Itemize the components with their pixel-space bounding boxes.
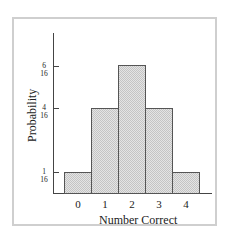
bar-3 <box>146 109 173 194</box>
x-tick-label-0: 0 <box>72 198 84 210</box>
bar-0 <box>65 173 92 194</box>
x-axis-label: Number Correct <box>99 213 177 228</box>
x-tick-label-2: 2 <box>126 198 138 210</box>
y-tick-label-1-16: 1 16 <box>37 168 51 184</box>
bar-1 <box>92 109 119 194</box>
x-tick-label-4: 4 <box>180 198 192 210</box>
x-tick-label-3: 3 <box>153 198 165 210</box>
x-tick-label-1: 1 <box>99 198 111 210</box>
bar-2 <box>119 66 146 194</box>
bar-4 <box>173 173 200 194</box>
y-tick-label-6-16: 6 16 <box>37 62 51 78</box>
y-axis-label: Probability <box>25 89 40 142</box>
